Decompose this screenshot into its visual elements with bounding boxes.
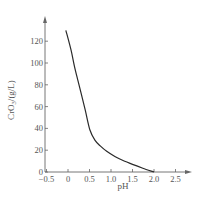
x-tick-label: 2.5 — [170, 174, 181, 184]
y-tick-label: 120 — [30, 36, 43, 46]
x-axis-arrow-icon — [185, 170, 192, 174]
y-tick-label: 60 — [35, 102, 44, 112]
y-axis-label-rest: /(g/L) — [6, 80, 16, 101]
y-tick-label: 20 — [35, 145, 44, 155]
x-tick-label: 0 — [66, 174, 70, 184]
y-axis-label: CrO3/(g/L) — [6, 80, 17, 120]
y-axis-arrow-icon — [43, 16, 47, 23]
y-axis-label-base: CrO — [6, 104, 16, 120]
y-tick-label: 0 — [39, 167, 43, 177]
series-line-cro3 — [66, 30, 154, 172]
chart: −0.500.51.01.52.02.5 020406080100120 pH … — [0, 0, 203, 205]
y-tick-label: 80 — [35, 80, 44, 90]
y-tick-label: 40 — [35, 123, 44, 133]
x-tick-label: 2.0 — [149, 174, 160, 184]
x-tick-label: 1.0 — [106, 174, 117, 184]
axes — [43, 16, 192, 174]
x-tick-label: 1.5 — [127, 174, 138, 184]
x-axis-label: pH — [118, 181, 130, 191]
x-tick-label: 0.5 — [84, 174, 95, 184]
y-tick-label: 100 — [30, 58, 43, 68]
x-ticks: −0.500.51.01.52.02.5 — [39, 169, 181, 184]
